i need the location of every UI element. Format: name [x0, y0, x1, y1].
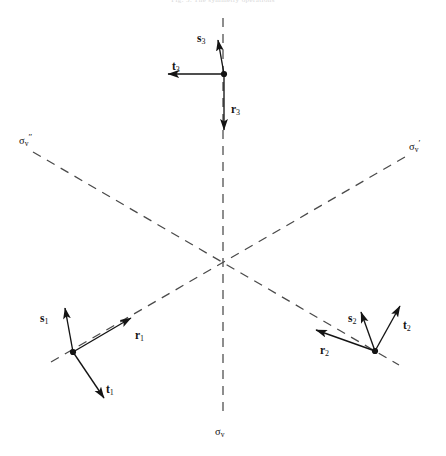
vector-label-t1: t1	[106, 384, 114, 397]
mirror-plane-label-sigma-v-prime: σv′	[409, 139, 420, 154]
vector-label-r2: r2	[320, 345, 329, 358]
mirror-plane-sigma-v-prime	[51, 157, 405, 362]
vector-t2-shaft	[375, 306, 400, 351]
mirror-plane-sigma-v-double-prime	[33, 152, 399, 365]
vector-r1-shaft	[73, 318, 131, 352]
mirror-plane-label-sigma-v-double-prime: σv″	[19, 133, 32, 148]
site-3-group	[168, 40, 227, 130]
mirror-plane-label-sigma-v: σv	[215, 424, 224, 439]
vector-label-r3: r3	[231, 104, 240, 117]
vector-label-s1: s1	[40, 313, 48, 326]
vector-subscript: 2	[325, 349, 329, 358]
sigma-subscript: v	[221, 430, 225, 439]
vector-subscript: 2	[407, 324, 411, 333]
mirror-planes-group	[33, 18, 405, 414]
vector-subscript: 3	[176, 65, 180, 74]
vector-subscript: 1	[110, 388, 114, 397]
vector-subscript: 2	[352, 317, 356, 326]
vector-label-s3: s3	[197, 33, 205, 46]
vector-s1-shaft	[65, 308, 73, 352]
vector-subscript: 3	[236, 108, 240, 117]
vector-label-s2: s2	[348, 313, 356, 326]
vector-label-t3: t3	[172, 61, 180, 74]
site-1-vertex-dot	[70, 349, 76, 355]
vector-label-r1: r1	[135, 330, 144, 343]
symmetry-diagram-figure: Fig. 3. The symmetry operations	[0, 0, 446, 456]
vector-t1-shaft	[73, 352, 104, 398]
vector-s2-shaft	[361, 312, 375, 351]
vector-subscript: 1	[140, 334, 144, 343]
sigma-prime-marks: ′	[418, 138, 419, 148]
site-2-vertex-dot	[372, 348, 378, 354]
site-3-vertex-dot	[221, 71, 227, 77]
vector-label-t2: t2	[403, 320, 411, 333]
vector-subscript: 1	[44, 317, 48, 326]
sigma-prime-marks: ″	[28, 132, 31, 142]
diagram-canvas	[0, 0, 446, 456]
vector-subscript: 3	[201, 37, 205, 46]
